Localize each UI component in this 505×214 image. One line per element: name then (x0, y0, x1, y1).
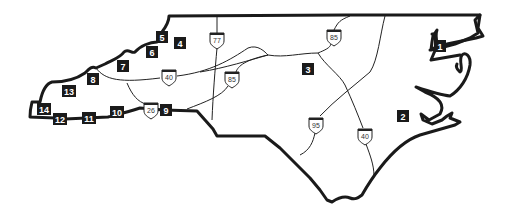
location-markers: 1 2 3 4 5 6 7 8 9 10 11 12 13 14 (37, 31, 446, 125)
location-marker-9[interactable]: 9 (160, 104, 172, 116)
road-i77 (212, 16, 217, 120)
location-marker-13[interactable]: 13 (62, 85, 76, 97)
interstate-26-shield: 26 (144, 103, 158, 119)
interstate-label: 95 (312, 122, 320, 129)
location-marker-8[interactable]: 8 (87, 73, 99, 85)
road-i40-east (318, 53, 374, 176)
interstate-95-shield: 95 (309, 118, 323, 134)
location-marker-1[interactable]: 1 (434, 40, 446, 52)
location-marker-10[interactable]: 10 (110, 106, 124, 118)
interstate-label: 40 (361, 133, 369, 140)
location-marker-4[interactable]: 4 (174, 37, 186, 49)
svg-text:12: 12 (55, 115, 65, 125)
interstate-label: 77 (213, 37, 221, 44)
interstate-77-shield: 77 (210, 33, 224, 49)
location-marker-14[interactable]: 14 (37, 103, 51, 115)
svg-text:4: 4 (177, 39, 182, 49)
state-border-main (30, 15, 480, 202)
location-marker-5[interactable]: 5 (156, 31, 168, 43)
interstate-label: 85 (330, 34, 338, 41)
location-marker-7[interactable]: 7 (117, 60, 129, 72)
location-marker-12[interactable]: 12 (53, 113, 67, 125)
state-outline (30, 15, 483, 202)
svg-text:1: 1 (437, 42, 442, 52)
road-network (96, 16, 385, 176)
location-marker-6[interactable]: 6 (146, 46, 158, 58)
road-i26-spur (127, 83, 146, 104)
svg-text:3: 3 (305, 65, 310, 75)
road-i85-north (334, 16, 350, 30)
svg-text:5: 5 (159, 33, 164, 43)
location-marker-3[interactable]: 3 (302, 63, 314, 75)
svg-text:13: 13 (64, 87, 74, 97)
svg-text:7: 7 (120, 62, 125, 72)
svg-text:2: 2 (400, 112, 405, 122)
interstate-85-shield-south: 85 (225, 72, 239, 88)
north-carolina-map: 77 85 40 85 26 95 40 (0, 0, 505, 214)
interstate-label: 85 (228, 76, 236, 83)
interstate-40-shield-west: 40 (162, 70, 176, 86)
svg-text:6: 6 (149, 48, 154, 58)
svg-text:9: 9 (163, 106, 168, 116)
location-marker-2[interactable]: 2 (397, 110, 409, 122)
svg-text:11: 11 (84, 114, 94, 124)
interstate-label: 26 (147, 107, 155, 114)
location-marker-11[interactable]: 11 (82, 112, 96, 124)
road-main-east (268, 44, 331, 56)
svg-text:10: 10 (112, 108, 122, 118)
interstate-label: 40 (165, 74, 173, 81)
svg-text:14: 14 (39, 105, 49, 115)
interstate-40-shield-east: 40 (358, 129, 372, 145)
interstate-85-shield-north: 85 (327, 30, 341, 46)
svg-text:8: 8 (90, 75, 95, 85)
